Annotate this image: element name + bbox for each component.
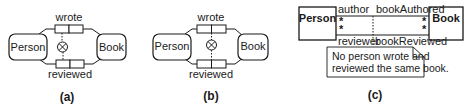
fact-type-reviewed bbox=[197, 60, 226, 68]
entity-person-label: Person bbox=[11, 41, 46, 53]
fact-type-wrote-label: wrote bbox=[55, 11, 83, 23]
multiplicity-reviewer: * bbox=[339, 23, 344, 35]
class-person-label: Person bbox=[299, 12, 337, 24]
fact-type-wrote bbox=[197, 25, 226, 33]
fact-type-wrote-label: wrote bbox=[197, 11, 225, 23]
exclusion-constraint-icon bbox=[58, 33, 68, 60]
caption-a: (a) bbox=[60, 90, 75, 104]
exclusion-constraint-icon bbox=[207, 33, 217, 60]
panel-c: Person Book author bookAuthored reviewer… bbox=[299, 3, 463, 102]
role-book-authored: bookAuthored bbox=[376, 3, 445, 15]
panel-b: Person Book wrote reviewed (b) bbox=[153, 11, 268, 103]
multiplicity-book-reviewed: * bbox=[422, 23, 427, 35]
panel-a: Person Book wrote reviewed (a) bbox=[9, 11, 126, 104]
note-line-1: No person wrote and bbox=[332, 50, 430, 62]
entity-person-label: Person bbox=[155, 40, 190, 52]
role-book-reviewed: bookReviewed bbox=[375, 35, 447, 47]
fact-type-reviewed-label: reviewed bbox=[48, 68, 92, 80]
fact-type-reviewed bbox=[56, 60, 84, 68]
entity-book-label: Book bbox=[240, 40, 266, 52]
role-author: author bbox=[338, 3, 370, 15]
diagram-canvas: Person Book wrote reviewed (a) bbox=[0, 0, 468, 112]
caption-b: (b) bbox=[203, 89, 218, 103]
caption-c: (c) bbox=[368, 88, 383, 102]
role-reviewer: reviewer bbox=[338, 35, 380, 47]
role-connectors bbox=[39, 29, 102, 64]
entity-book-label: Book bbox=[99, 41, 125, 53]
note-line-2: reviewed the same book. bbox=[332, 62, 449, 74]
fact-type-reviewed-label: reviewed bbox=[189, 68, 233, 80]
fact-type-wrote bbox=[55, 25, 83, 33]
